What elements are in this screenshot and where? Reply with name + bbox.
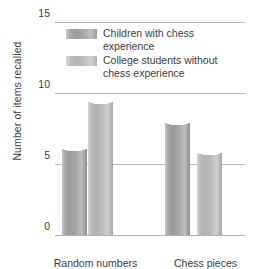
bar-body [62, 155, 87, 235]
bar-cap [62, 148, 87, 162]
x-axis-label-random-numbers: Random numbers [43, 257, 148, 269]
legend-label-college: College students without chess experienc… [103, 54, 244, 79]
y-tick-label-5: 5 [32, 150, 50, 161]
y-tick-label-15: 15 [32, 8, 50, 19]
legend-item-college: College students without chess experienc… [66, 54, 244, 79]
bar-chess-pieces-college [197, 152, 222, 235]
bar-random-numbers-college [88, 101, 113, 235]
axis-baseline [55, 235, 245, 236]
bar-cap [197, 152, 222, 166]
legend-item-children: Children with chess experience [66, 27, 244, 52]
legend-label-children: Children with chess experience [103, 27, 244, 52]
legend-swatch-icon-college [66, 56, 97, 66]
gridline-10 [55, 93, 245, 94]
bar-cap [165, 122, 190, 136]
bar-cap [88, 101, 113, 115]
y-tick-label-10: 10 [32, 79, 50, 90]
y-tick-label-0: 0 [32, 221, 50, 232]
bar-chess-pieces-children [165, 122, 190, 235]
bar-body [88, 108, 113, 235]
bar-random-numbers-children [62, 148, 87, 235]
y-axis-title: Number of items recalled [11, 16, 23, 186]
bar-body [165, 129, 190, 235]
bar-body [197, 159, 222, 235]
gridline-15 [55, 22, 245, 23]
legend: Children with chess experience College s… [66, 27, 244, 81]
x-axis-label-chess-pieces: Chess pieces [153, 257, 258, 269]
legend-swatch-icon-children [66, 29, 97, 39]
